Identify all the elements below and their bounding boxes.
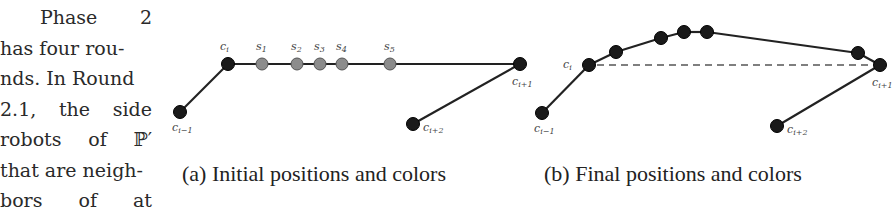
- fig-a-robot-s2: [291, 58, 303, 70]
- figure-a-caption: (a) Initial positions and colors: [182, 161, 446, 187]
- fig-a-edge: [180, 64, 228, 112]
- fig-a-label-c_i-1: ci−1: [172, 121, 193, 135]
- fig-a-robot-c_i-1: [174, 106, 187, 119]
- fig-a-robot-c_i+2: [407, 118, 420, 131]
- fig-b-robot-r4: [701, 26, 714, 39]
- fig-b-robot-c_i-1: [536, 107, 549, 120]
- fig-b-edge: [777, 65, 880, 126]
- fig-b-label-c_i+2: ci+2: [787, 123, 808, 137]
- fig-b-edge: [707, 32, 858, 53]
- fig-b-robot-r5: [852, 47, 865, 60]
- fig-a-edge: [413, 64, 520, 124]
- fig-a-label-c_i: ci: [220, 40, 229, 54]
- fig-a-robot-s4: [336, 58, 348, 70]
- fig-a-label-s5: s5: [384, 40, 395, 54]
- fig-a-label-c_i+1: ci+1: [512, 75, 533, 89]
- fig-b-label-c_i-1: ci−1: [534, 122, 555, 136]
- fig-a-robot-s1: [256, 58, 268, 70]
- fig-a-label-c_i+2: ci+2: [423, 121, 444, 135]
- figure-b-final-positions: ci−1cici+1ci+2: [534, 26, 893, 138]
- fig-b-label-c_i+1: ci+1: [872, 76, 893, 90]
- fig-a-robot-c_i+1: [514, 58, 527, 71]
- fig-a-label-s4: s4: [336, 40, 347, 54]
- fig-a-robot-c_i: [222, 58, 235, 71]
- fig-b-robot-r2: [655, 32, 668, 45]
- fig-a-label-s1: s1: [256, 40, 267, 54]
- figure-a-initial-positions: ci−1cis1s2s3s4s5ci+1ci+2: [172, 40, 533, 135]
- fig-b-robot-c_i+1: [874, 59, 887, 72]
- fig-a-robot-s3: [314, 58, 326, 70]
- figure-b-caption: (b) Final positions and colors: [544, 161, 802, 187]
- fig-a-robot-s5: [384, 58, 396, 70]
- fig-b-robot-r3: [678, 26, 691, 39]
- fig-b-edge: [616, 38, 661, 52]
- fig-b-robot-c_i: [583, 59, 596, 72]
- fig-a-label-s3: s3: [314, 40, 325, 54]
- fig-a-label-s2: s2: [291, 40, 302, 54]
- fig-b-robot-c_i+2: [771, 120, 784, 133]
- fig-b-robot-r1: [610, 46, 623, 59]
- fig-b-label-c_i: ci: [563, 58, 572, 72]
- fig-b-edge: [542, 65, 589, 113]
